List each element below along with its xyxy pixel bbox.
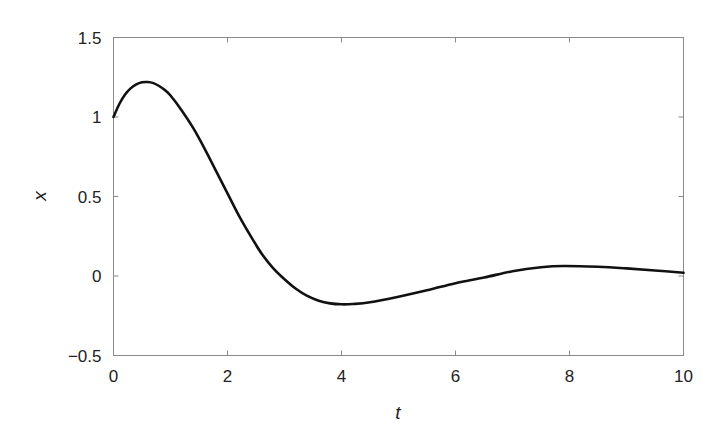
- y-tick-label: 0: [92, 267, 101, 286]
- x-axis-label: t: [395, 402, 401, 423]
- plot-frame: [114, 38, 684, 356]
- x-tick-label: 2: [223, 367, 232, 386]
- x-tick-label: 6: [451, 367, 460, 386]
- y-tick-label: 1: [92, 108, 101, 127]
- y-axis-label: x: [29, 190, 50, 202]
- x-tick-label: 4: [337, 367, 346, 386]
- y-axis-ticks: −0.500.511.5: [68, 29, 684, 366]
- x-axis-ticks: 0246810: [109, 38, 693, 386]
- line-chart: −0.500.511.5 0246810 t x: [0, 0, 727, 446]
- y-tick-label: 1.5: [78, 29, 102, 48]
- y-tick-label: −0.5: [68, 347, 102, 366]
- data-line: [114, 82, 684, 304]
- x-tick-label: 0: [109, 367, 118, 386]
- x-tick-label: 8: [565, 367, 574, 386]
- x-tick-label: 10: [674, 367, 693, 386]
- y-tick-label: 0.5: [78, 188, 102, 207]
